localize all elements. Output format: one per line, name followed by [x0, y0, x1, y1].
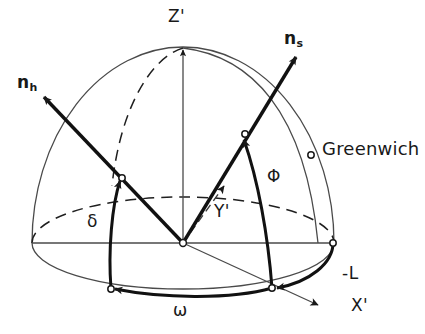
vector-n-s	[183, 57, 296, 243]
n-s-surface-marker	[242, 131, 248, 137]
x-axis-surface-marker	[269, 285, 275, 291]
x-axis-label: X'	[351, 297, 368, 314]
sphere-diagram	[0, 0, 425, 334]
greenwich-meridian	[183, 48, 318, 243]
angle-phi-label: Φ	[267, 168, 280, 185]
phi-meridian-arc	[244, 140, 272, 288]
sphere-center-marker	[180, 240, 187, 247]
minus-L-label: -L	[342, 265, 359, 282]
vector-n-s-label: ns	[284, 30, 303, 47]
minus-L-arc	[277, 243, 333, 288]
z-axis-label: Z'	[168, 8, 185, 25]
figure-root: Z' nh ns Greenwich Φ Y' δ -L X' ω	[0, 0, 425, 334]
delta-meridian-arc	[110, 181, 120, 289]
n-h-surface-marker	[119, 175, 125, 181]
greenwich-label: Greenwich	[322, 140, 419, 158]
sphere-lower-outline	[32, 243, 334, 289]
angle-omega-label: ω	[173, 302, 187, 319]
vector-n-h-base: n	[17, 72, 29, 92]
equator-right-marker	[330, 240, 336, 246]
back-meridian-dashed	[112, 48, 183, 186]
vector-n-h-label: nh	[17, 74, 37, 91]
vector-n-h-subscript: h	[30, 81, 38, 94]
angle-delta-label: δ	[87, 213, 97, 230]
omega-arc-end-marker	[108, 286, 114, 292]
y-axis-label: Y'	[214, 203, 230, 220]
vector-n-s-subscript: s	[297, 37, 304, 50]
vector-n-s-base: n	[284, 28, 296, 48]
greenwich-marker	[308, 152, 314, 158]
